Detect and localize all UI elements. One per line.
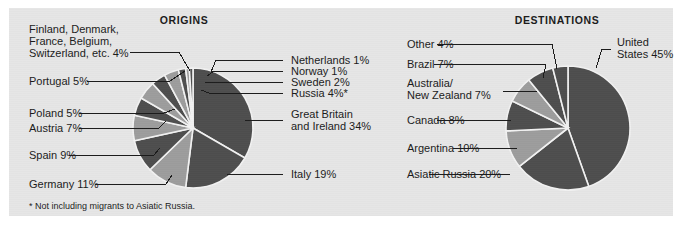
label-austria: Austria 7% [29, 122, 82, 134]
label-canada: Canada 8% [407, 114, 465, 126]
footnote: * Not including migrants to Asiatic Russ… [29, 201, 195, 211]
label-misc-line3: Switzerland, etc. 4% [29, 47, 129, 59]
label-italy: Italy 19% [291, 168, 336, 180]
label-brazil: Brazil 7% [407, 58, 454, 70]
label-portugal: Portugal 5% [29, 75, 89, 87]
destinations-pie [506, 66, 630, 190]
chart-panel: ORIGINS Finland, Denmark, France, Belgiu… [9, 8, 673, 216]
figure-root: ORIGINS Finland, Denmark, France, Belgiu… [0, 0, 683, 246]
origins-title: ORIGINS [160, 14, 209, 26]
label-argentina: Argentina 10% [407, 142, 479, 154]
label-other: Other 4% [407, 38, 454, 50]
leader-netherlands [211, 60, 283, 72]
leader-united-states [596, 49, 611, 68]
label-misc-line1: Finland, Denmark, [29, 23, 119, 35]
label-united-states-line1: United [617, 36, 649, 48]
label-misc-line2: France, Belgium, [29, 35, 112, 47]
label-poland: Poland 5% [29, 107, 82, 119]
label-spain: Spain 9% [29, 149, 76, 161]
label-germany: Germany 11% [29, 178, 99, 190]
label-russia: Russia 4%* [291, 87, 349, 99]
pie-charts-svg: ORIGINS Finland, Denmark, France, Belgiu… [9, 8, 673, 216]
label-great-britain-line1: Great Britain [291, 108, 353, 120]
leader-misc [130, 52, 190, 71]
label-australia-line1: Australia/ [407, 77, 454, 89]
label-united-states-line2: States 45% [617, 48, 673, 60]
label-asiatic-russia: Asiatic Russia 20% [407, 168, 501, 180]
leader-other [437, 44, 557, 69]
destinations-title: DESTINATIONS [515, 14, 600, 26]
label-australia-line2: New Zealand 7% [407, 89, 491, 101]
label-great-britain-line2: and Ireland 34% [291, 120, 371, 132]
